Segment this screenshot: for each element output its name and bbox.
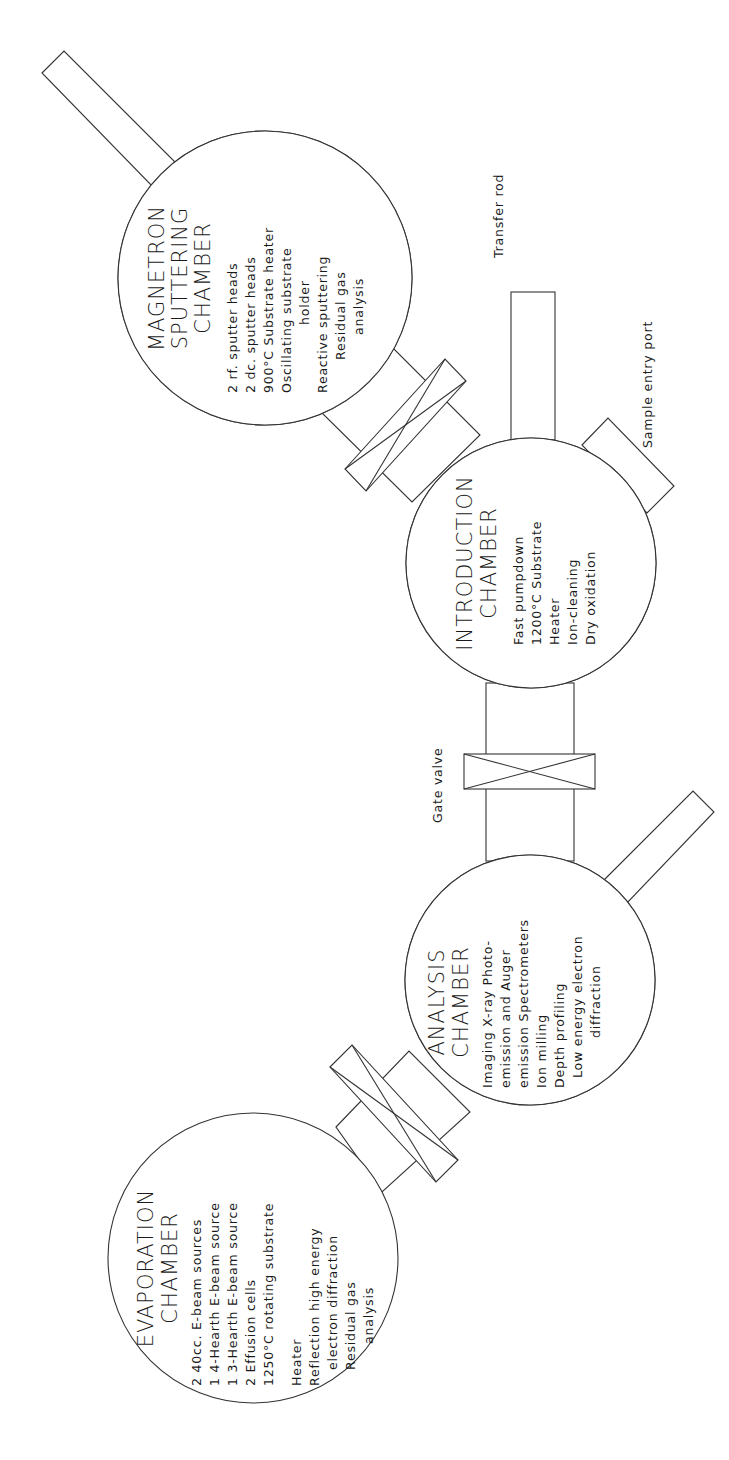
analysis-line: emission and Auger	[498, 949, 513, 1088]
evaporation-line: 1 4-Hearth E-beam source	[207, 1202, 222, 1386]
evaporation-line: 1250°C rotating substrate	[261, 1203, 276, 1386]
evaporation-line: Residual gas	[343, 1282, 358, 1370]
analysis-line: diffraction	[588, 965, 603, 1038]
gate-valve-label: Gate valve	[430, 747, 445, 823]
magnetron-line: 2 dc. sputter heads	[243, 256, 258, 393]
evaporation-line: Heater	[289, 1339, 304, 1386]
evaporation-title-1: EVAPORATION	[134, 1189, 158, 1348]
sample-entry-port-label: Sample entry port	[640, 321, 655, 448]
evaporation-line: Reflection high energy	[307, 1227, 322, 1386]
magnetron-line: Residual gas	[333, 272, 348, 360]
introduction-line: 1200°C Substrate	[529, 521, 544, 645]
magnetron-line: Reactive sputtering	[315, 256, 330, 393]
transfer-rod	[511, 292, 555, 440]
analysis-title-1: ANALYSIS	[425, 948, 449, 1055]
analysis-port-arm	[604, 791, 714, 903]
introduction-title-1: INTRODUCTION	[453, 475, 477, 650]
evaporation-line: analysis	[361, 1287, 376, 1344]
introduction-line: Ion-cleaning	[565, 559, 580, 645]
magnetron-line: holder	[297, 280, 312, 325]
analysis-line: emission Spectrometers	[516, 919, 531, 1088]
evaporation-line: 2 Effusion cells	[243, 1279, 258, 1386]
analysis-line: Low energy electron	[570, 936, 585, 1078]
introduction-line: Fast pumpdown	[511, 536, 526, 645]
magnetron-title-1: MAGNETRON	[145, 205, 169, 351]
magnetron-title-3: CHAMBER	[191, 222, 215, 334]
introduction-line: Heater	[547, 598, 562, 645]
uhv-chamber-system-diagram: Transfer rod Sample entry port Gate valv…	[0, 0, 729, 1460]
magnetron-line: 2 rf. sputter heads	[225, 263, 240, 393]
introduction-title-2: CHAMBER	[477, 507, 501, 619]
magnetron-port-arm	[42, 51, 175, 186]
magnetron-line: Oscillating substrate	[279, 248, 294, 393]
magnetron-line: 900°C Substrate heater	[261, 227, 276, 393]
transfer-rod-label: Transfer rod	[491, 174, 506, 259]
evaporation-line: electron diffraction	[325, 1235, 340, 1370]
magnetron-title-2: SPUTTERING	[168, 207, 192, 350]
analysis-line: Depth profiling	[552, 983, 567, 1088]
analysis-line: Ion milling	[534, 1014, 549, 1088]
magnetron-line: analysis	[351, 278, 366, 335]
evaporation-line: 1 3-Hearth E-beam source	[225, 1202, 240, 1386]
introduction-line: Dry oxidation	[583, 551, 598, 645]
evaporation-title-2: CHAMBER	[158, 1212, 182, 1324]
evaporation-line: 2 40cc. E-beam sources	[189, 1219, 204, 1386]
gate-valve-introduction-analysis	[464, 754, 595, 789]
analysis-title-2: CHAMBER	[449, 946, 473, 1058]
analysis-line: Imaging X-ray Photo-	[480, 940, 495, 1088]
